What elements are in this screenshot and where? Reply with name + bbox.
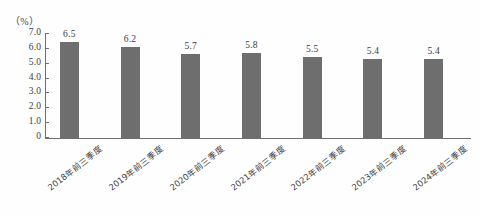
y-axis-tick-label: 0 xyxy=(0,131,41,141)
x-axis-category-label: 2021年前三季度 xyxy=(227,142,287,192)
bar xyxy=(303,57,322,139)
bar-value-label: 5.5 xyxy=(306,44,318,54)
bar-group: 5.8 xyxy=(242,34,261,139)
bar-value-label: 6.2 xyxy=(124,34,136,44)
bar-value-label: 5.8 xyxy=(245,40,257,50)
y-axis-tick-label: 2.0 xyxy=(0,101,41,111)
bar-value-label: 5.7 xyxy=(185,41,197,51)
bar-chart: （%） 7.06.05.04.03.02.01.00 6.56.25.75.85… xyxy=(0,0,481,217)
x-axis-category-label: 2024年前三季度 xyxy=(409,142,469,192)
bar xyxy=(60,42,79,139)
x-axis-category-label: 2022年前三季度 xyxy=(288,142,348,192)
y-axis-unit-label: （%） xyxy=(10,13,39,28)
bar-value-label: 5.4 xyxy=(367,46,379,56)
y-axis-tick-label: 6.0 xyxy=(0,42,41,52)
x-axis-category-label: 2018年前三季度 xyxy=(45,142,105,192)
bar-group: 5.4 xyxy=(424,34,443,139)
bar-group: 6.5 xyxy=(60,34,79,139)
y-axis-tick-label: 3.0 xyxy=(0,86,41,96)
bar-group: 5.4 xyxy=(363,34,382,139)
y-axis-tick-label: 7.0 xyxy=(0,27,41,37)
bar xyxy=(242,53,261,139)
bar-group: 5.7 xyxy=(181,34,200,139)
x-axis-category-label: 2019年前三季度 xyxy=(106,142,166,192)
x-axis-category-label: 2020年前三季度 xyxy=(166,142,226,192)
plot-area: 6.56.25.75.85.55.45.4 xyxy=(45,34,470,139)
bar xyxy=(363,59,382,139)
y-axis-tick-label: 5.0 xyxy=(0,57,41,67)
bar xyxy=(121,47,140,139)
bar-value-label: 5.4 xyxy=(427,46,439,56)
x-axis-category-label: 2023年前三季度 xyxy=(348,142,408,192)
y-axis-tick-label: 4.0 xyxy=(0,72,41,82)
bar-group: 5.5 xyxy=(303,34,322,139)
bar-group: 6.2 xyxy=(121,34,140,139)
bar xyxy=(424,59,443,139)
bar-value-label: 6.5 xyxy=(63,29,75,39)
y-axis-tick-label: 1.0 xyxy=(0,116,41,126)
bar xyxy=(181,54,200,139)
